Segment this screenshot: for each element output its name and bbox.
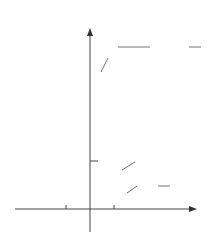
leader-parabola bbox=[122, 162, 135, 170]
leader-reciprocal bbox=[127, 186, 137, 193]
y-axis-arrow-icon bbox=[87, 28, 93, 36]
leader-combined bbox=[101, 58, 108, 72]
graph bbox=[0, 0, 215, 240]
x-axis-arrow-icon bbox=[189, 206, 197, 212]
